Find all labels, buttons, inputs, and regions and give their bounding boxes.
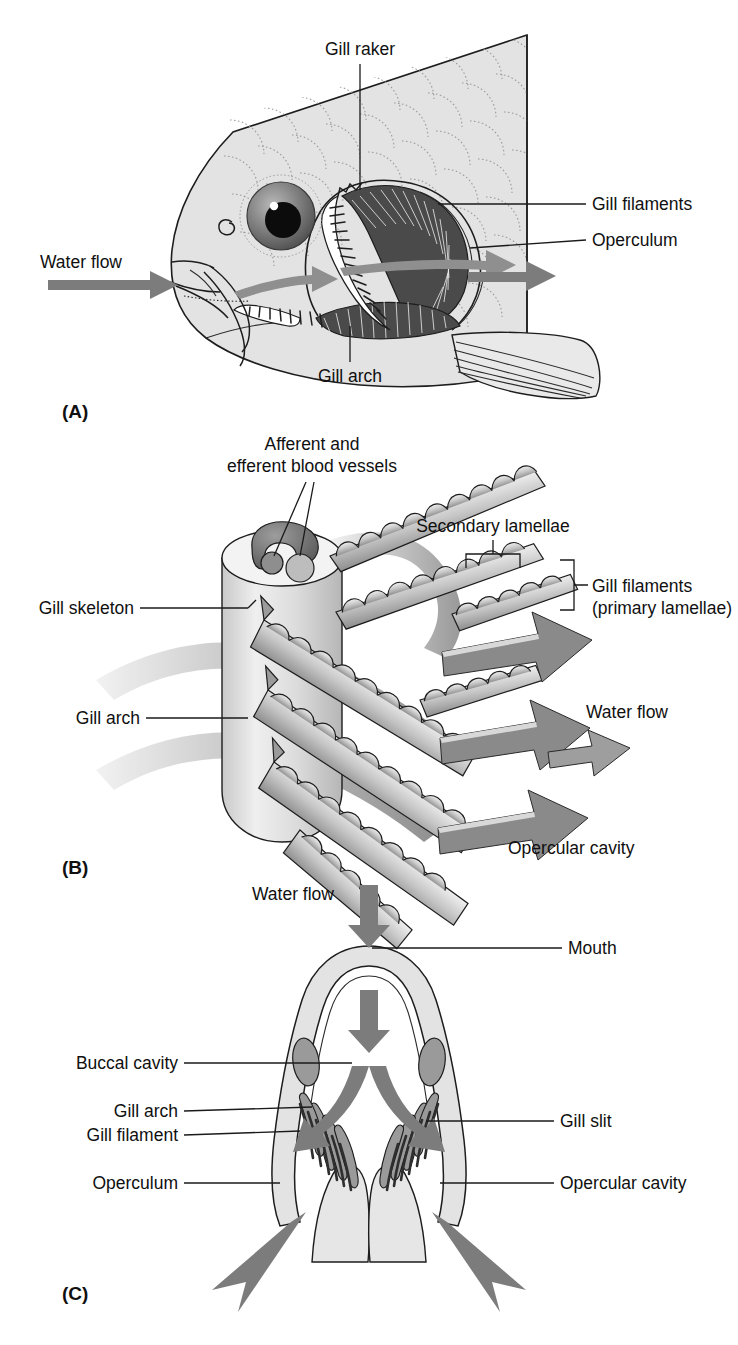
label-afferent-line2: efferent blood vessels: [227, 456, 397, 476]
panel-tag-b: (B): [62, 857, 88, 878]
label-water-flow-c: Water flow: [252, 884, 334, 904]
label-water-flow-b: Water flow: [586, 702, 668, 722]
efferent-vessel: [286, 554, 314, 582]
panel-tag-c: (C): [62, 1283, 88, 1304]
label-afferent-line1: Afferent and: [264, 434, 359, 454]
flow-arrow-out-right: [432, 1212, 526, 1312]
label-mouth: Mouth: [568, 938, 617, 958]
label-opercular-cavity-b: Opercular cavity: [508, 838, 635, 858]
panel-b: Afferent and efferent blood vessels Gill…: [39, 434, 732, 956]
label-gill-raker: Gill raker: [325, 39, 395, 59]
water-flow-arrow-in: [48, 271, 178, 299]
label-gill-filaments-b-1: Gill filaments: [592, 576, 692, 596]
label-gill-arch-c: Gill arch: [114, 1101, 178, 1121]
flow-arrow-buccal: [348, 990, 390, 1053]
head-ventral-outline: [272, 946, 466, 1226]
panel-a: Gill raker Gill filaments Operculum Gill…: [40, 35, 692, 422]
label-gill-arch-b: Gill arch: [76, 708, 140, 728]
label-gill-filaments-a: Gill filaments: [592, 194, 692, 214]
label-operculum-c: Operculum: [92, 1173, 178, 1193]
panel-c: Water flow Mouth Buccal cavity Gill arch…: [62, 884, 687, 1312]
water-flow-arrows-b: [438, 612, 630, 860]
label-gill-skeleton: Gill skeleton: [39, 598, 134, 618]
figure-root: Gill raker Gill filaments Operculum Gill…: [0, 0, 738, 1345]
label-water-flow-a: Water flow: [40, 252, 122, 272]
label-opercular-cavity-c: Opercular cavity: [560, 1173, 687, 1193]
pectoral-fin: [452, 332, 600, 398]
label-gill-filaments-b-2: (primary lamellae): [592, 598, 732, 618]
label-gill-filament-c: Gill filament: [87, 1125, 179, 1145]
label-gill-arch-a: Gill arch: [318, 366, 382, 386]
afferent-vessel: [261, 552, 283, 574]
label-operculum-a: Operculum: [592, 230, 678, 250]
label-gill-slit: Gill slit: [560, 1111, 612, 1131]
flow-arrow-out-left: [212, 1212, 306, 1312]
panel-tag-a: (A): [62, 401, 88, 422]
label-secondary-lamellae: Secondary lamellae: [416, 516, 570, 536]
label-buccal-cavity: Buccal cavity: [76, 1053, 178, 1073]
